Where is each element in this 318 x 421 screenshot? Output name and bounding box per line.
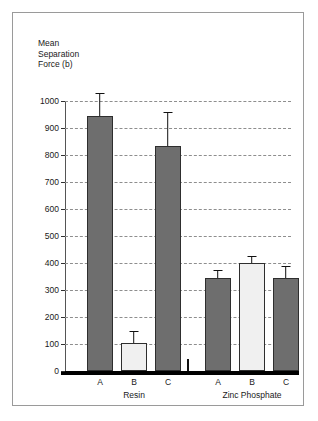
error-bar-stem <box>167 112 168 146</box>
y-axis-tick-label: 300 <box>19 285 59 295</box>
error-bar-cap <box>282 266 291 267</box>
y-axis-tick <box>61 182 65 183</box>
y-axis-tick <box>61 344 65 345</box>
bar-zinc-phosphate-c <box>273 278 299 371</box>
x-axis-category-label: A <box>87 377 113 387</box>
x-axis-category-label: B <box>239 377 265 387</box>
y-axis-tick-label: 700 <box>19 177 59 187</box>
error-bar-stem <box>133 331 134 343</box>
y-axis-tick-label: 100 <box>19 339 59 349</box>
error-bar <box>87 93 113 116</box>
y-axis-tick-label: 900 <box>19 123 59 133</box>
error-bar-cap <box>214 270 223 271</box>
y-axis-tick-label: 0 <box>19 366 59 376</box>
error-bar <box>205 270 231 278</box>
y-axis-title: Mean Separation Force (b) <box>38 38 79 70</box>
y-axis-tick-label: 800 <box>19 150 59 160</box>
y-axis-tick-label: 1000 <box>19 96 59 106</box>
error-bar-stem <box>217 270 218 278</box>
y-axis-tick-label: 400 <box>19 258 59 268</box>
plot-area: 01002003004005006007008009001000ABCResin… <box>65 83 291 379</box>
y-axis-tick <box>61 371 65 372</box>
x-axis-category-label: B <box>121 377 147 387</box>
y-axis-tick <box>61 290 65 291</box>
y-axis-tick <box>61 128 65 129</box>
error-bar <box>273 266 299 278</box>
bar-chart: Mean Separation Force (b) 01002003004005… <box>13 13 305 407</box>
error-bar-cap <box>130 331 139 332</box>
bar-resin-c <box>155 146 181 371</box>
y-axis-tick <box>61 155 65 156</box>
error-bar <box>155 112 181 146</box>
x-axis-category-label: C <box>155 377 181 387</box>
error-bar-stem <box>251 256 252 263</box>
error-bar <box>121 331 147 343</box>
x-axis-group-label: Resin <box>87 390 181 400</box>
group-separator-tick <box>187 359 189 371</box>
x-axis-baseline <box>61 371 299 375</box>
y-axis-tick <box>61 236 65 237</box>
bar-zinc-phosphate-b <box>239 263 265 371</box>
bar-resin-a <box>87 116 113 371</box>
bar-resin-b <box>121 343 147 371</box>
x-axis-group-label: Zinc Phosphate <box>205 390 299 400</box>
y-axis-tick-label: 500 <box>19 231 59 241</box>
x-axis-category-label: C <box>273 377 299 387</box>
error-bar-cap <box>248 256 257 257</box>
x-axis-category-label: A <box>205 377 231 387</box>
error-bar <box>239 256 265 263</box>
y-axis-tick <box>61 101 65 102</box>
error-bar-cap <box>164 112 173 113</box>
error-bar-cap <box>96 93 105 94</box>
y-axis-tick <box>61 209 65 210</box>
chart-frame: Mean Separation Force (b) 01002003004005… <box>12 12 304 406</box>
error-bar-stem <box>285 266 286 278</box>
y-axis-tick <box>61 317 65 318</box>
y-axis-tick <box>61 263 65 264</box>
bar-zinc-phosphate-a <box>205 278 231 371</box>
y-axis-tick-label: 200 <box>19 312 59 322</box>
y-axis-tick-label: 600 <box>19 204 59 214</box>
error-bar-stem <box>99 93 100 116</box>
